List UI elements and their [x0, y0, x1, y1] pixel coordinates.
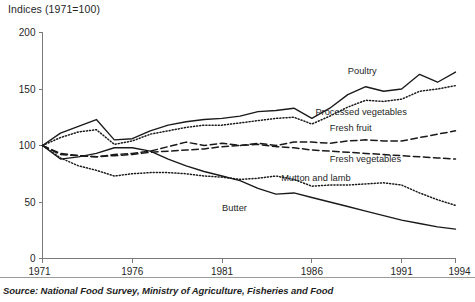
source-divider: [0, 277, 475, 278]
series-line-fresh-fruit: [43, 131, 456, 157]
series-label-butter: Butter: [222, 203, 247, 213]
series-label-mutton-and-lamb: Mutton and lamb: [281, 173, 350, 183]
series-label-poultry: Poultry: [348, 66, 377, 76]
y-tick-label: 200: [19, 27, 36, 38]
x-tick-label: 1986: [301, 266, 324, 277]
series-label-fresh-fruit: Fresh fruit: [330, 123, 372, 133]
x-tick-label: 1994: [448, 266, 471, 277]
chart-figure: Indices (1971=100) 050100150200 19711976…: [0, 0, 475, 302]
y-tick-label: 50: [24, 197, 36, 208]
series-annotations: PoultryProcessed vegetablesFresh fruitFr…: [222, 66, 407, 213]
y-axis: 050100150200: [19, 27, 43, 264]
data-series-group: [43, 72, 456, 229]
y-tick-label: 0: [30, 253, 36, 264]
x-tick-label: 1971: [28, 266, 51, 277]
y-tick-label: 150: [19, 84, 36, 95]
x-tick-label: 1991: [391, 266, 414, 277]
series-label-fresh-vegetables: Fresh vegetables: [330, 154, 402, 164]
series-label-processed-vegetables: Processed vegetables: [315, 107, 407, 117]
y-tick-label: 100: [19, 140, 36, 151]
source-note: Source: National Food Survey, Ministry o…: [3, 285, 333, 296]
x-tick-label: 1976: [121, 266, 144, 277]
line-chart-plot: 050100150200 197119761981198619911994 Po…: [0, 0, 475, 302]
x-axis: 197119761981198619911994: [28, 259, 471, 277]
x-tick-label: 1981: [211, 266, 234, 277]
